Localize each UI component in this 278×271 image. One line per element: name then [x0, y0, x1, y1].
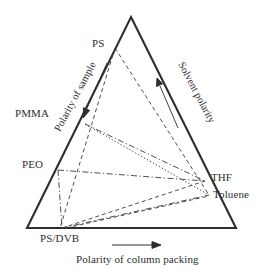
- line-pmma-thf: [85, 124, 205, 181]
- line-psdvb-toluene: [62, 195, 209, 228]
- node-label-toluene: Toluene: [213, 189, 249, 200]
- axis-arrows: [83, 63, 178, 248]
- diagram-canvas: [0, 0, 278, 271]
- node-label-peo: PEO: [22, 159, 43, 170]
- node-label-pmma: PMMA: [15, 108, 49, 119]
- line-peo-thf: [58, 170, 205, 181]
- node-label-ps-dvb: PS/DVB: [40, 233, 79, 244]
- bottom-axis-label: Polarity of column packing: [76, 254, 199, 265]
- line-psdvb-toluene-2: [66, 196, 209, 228]
- ternary-diagram-figure: PS PMMA PEO PS/DVB THF Toluene Polarity …: [0, 0, 278, 271]
- node-label-ps: PS: [92, 38, 104, 49]
- right-arrow-icon: [112, 242, 161, 249]
- node-label-thf: THF: [211, 172, 232, 183]
- line-psdvb-thf: [62, 181, 205, 228]
- line-ps-toluene: [115, 48, 209, 195]
- line-peo-psdvb: [58, 170, 62, 228]
